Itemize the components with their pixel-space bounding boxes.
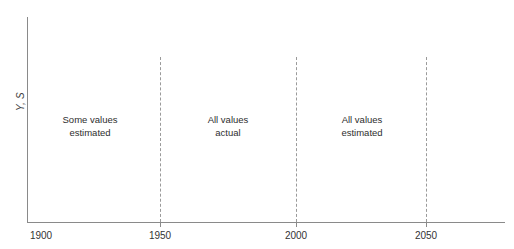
reference-line-2000 [296,57,297,222]
reference-line-1950 [160,57,161,222]
region-annotation-3-line1: All values [297,113,427,126]
region-annotation-2-line1: All values [163,113,293,126]
x-axis-line [27,222,505,223]
reference-line-2050 [426,57,427,222]
x-tick-label-2050: 2050 [396,230,456,241]
region-annotation-1-line2: estimated [25,126,155,139]
region-annotation-3: All values estimated [297,113,427,139]
region-annotation-2-line2: actual [163,126,293,139]
region-annotation-1: Some values estimated [25,113,155,139]
chart-figure: Y, S 1900 1950 2000 2050 Some values est… [0,0,514,249]
x-tick-mark-2050 [426,223,427,227]
x-tick-mark-2000 [296,223,297,227]
region-annotation-1-line1: Some values [25,113,155,126]
x-tick-label-1900: 1900 [11,230,71,241]
y-axis-title: Y, S [15,82,26,122]
region-annotation-3-line2: estimated [297,126,427,139]
x-tick-label-1950: 1950 [130,230,190,241]
region-annotation-2: All values actual [163,113,293,139]
x-tick-mark-1950 [160,223,161,227]
x-tick-label-2000: 2000 [266,230,326,241]
